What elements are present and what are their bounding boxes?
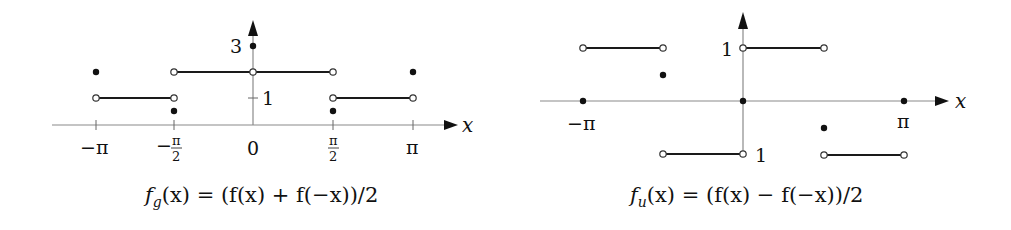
label-half-pi-num: π: [329, 133, 338, 148]
open-point: [901, 152, 907, 158]
x-axis-arrow-icon: [444, 120, 458, 130]
open-point: [171, 95, 177, 101]
even-part-plot: x −π − π 2 0 π 2 π 3 1: [52, 20, 473, 164]
closed-point: [410, 69, 416, 75]
open-point: [410, 95, 416, 101]
open-point: [740, 45, 746, 51]
label-y-one-top: 1: [721, 38, 733, 60]
x-axis-label: x: [462, 113, 473, 137]
caption-odd-part: fu(x) = (f(x) − f(−x))/2: [630, 183, 863, 210]
label-neg-pi: −π: [567, 112, 595, 134]
x-axis-arrow-icon: [935, 96, 949, 106]
caption-subscript: g: [153, 194, 162, 210]
label-neg-pi: −π: [80, 136, 108, 158]
label-zero: 0: [247, 137, 259, 159]
closed-point: [660, 72, 666, 78]
y-axis-arrow-icon: [248, 20, 258, 36]
open-point: [250, 69, 256, 75]
label-neg-half-pi-sign: −: [156, 134, 172, 156]
label-y-one: 1: [262, 87, 274, 109]
caption-even-part: fg(x) = (f(x) + f(−x))/2: [145, 183, 378, 210]
label-neg-half-pi-num: π: [172, 133, 181, 148]
open-point: [660, 151, 666, 157]
caption-subscript: u: [638, 194, 647, 210]
label-pi: π: [897, 110, 910, 132]
odd-part-plot: x −π π 1 1: [540, 12, 966, 166]
open-point: [580, 45, 586, 51]
label-half-pi-den: 2: [329, 149, 337, 164]
closed-point: [250, 43, 256, 49]
closed-point: [821, 125, 827, 131]
closed-point: [740, 98, 746, 104]
label-y-three: 3: [230, 35, 242, 57]
x-axis-label: x: [955, 89, 966, 113]
open-point: [330, 95, 336, 101]
open-point: [660, 45, 666, 51]
open-point: [740, 151, 746, 157]
open-point: [821, 152, 827, 158]
caption-formula: (x) = (f(x) − f(−x))/2: [647, 183, 864, 207]
caption-func: f: [630, 183, 638, 207]
caption-func: f: [145, 183, 153, 207]
open-point: [171, 69, 177, 75]
open-point: [93, 95, 99, 101]
caption-formula: (x) = (f(x) + f(−x))/2: [162, 183, 379, 207]
closed-point: [580, 98, 586, 104]
closed-point: [93, 69, 99, 75]
closed-point: [901, 98, 907, 104]
label-pi: π: [406, 136, 419, 158]
label-y-one-bottom: 1: [755, 144, 767, 166]
label-neg-half-pi-den: 2: [172, 149, 180, 164]
closed-point: [330, 108, 336, 114]
closed-point: [171, 108, 177, 114]
y-axis-arrow-icon: [738, 12, 748, 29]
open-point: [330, 69, 336, 75]
open-point: [821, 45, 827, 51]
